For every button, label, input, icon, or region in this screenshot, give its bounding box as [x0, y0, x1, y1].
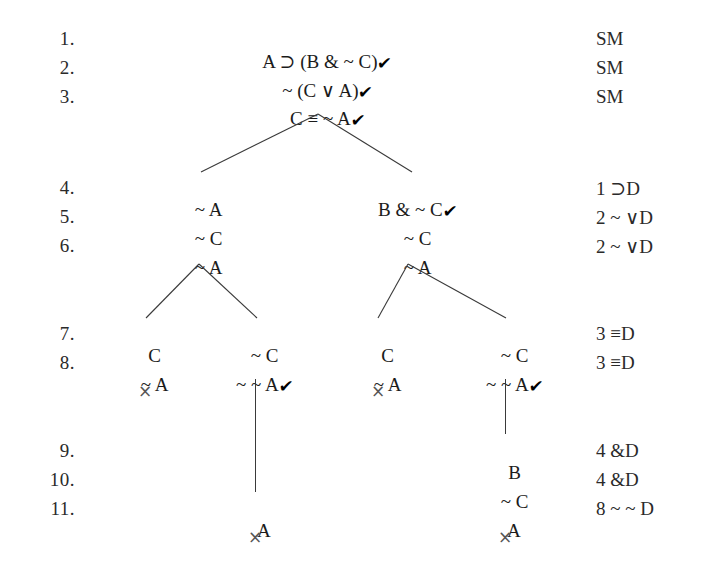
- line-number: 2.: [15, 57, 75, 79]
- branch-stem-4: [505, 379, 506, 434]
- formula-text: ~ ~ A: [486, 374, 529, 395]
- branch-close-mark: ×: [248, 527, 262, 547]
- justification: 8 ~ ~ D: [596, 498, 654, 520]
- line-number: 3.: [15, 86, 75, 108]
- justification: 4 &D: [596, 440, 639, 462]
- justification: 4 &D: [596, 469, 639, 491]
- line-number: 9.: [15, 440, 75, 462]
- branch-close-mark: ×: [138, 381, 152, 401]
- line-number: 10.: [15, 469, 75, 491]
- line-number: 4.: [15, 177, 75, 199]
- line-number: 8.: [15, 352, 75, 374]
- check-icon: ✔: [442, 201, 458, 221]
- branch-fork-root: [190, 112, 420, 174]
- justification: SM: [596, 57, 623, 79]
- branch-stem-2: [255, 379, 256, 492]
- justification: 1 ⊃D: [596, 177, 640, 200]
- justification: 3 ≡D: [596, 352, 635, 374]
- justification: SM: [596, 28, 623, 50]
- check-icon: ✔: [278, 376, 294, 396]
- line-number: 5.: [15, 206, 75, 228]
- branch-fork-right: [372, 262, 512, 320]
- truth-tree-canvas: 1. 2. 3. 4. 5. 6. 7. 8. 9. 10. 11. SM SM…: [0, 0, 705, 578]
- line-number: 7.: [15, 323, 75, 345]
- justification: SM: [596, 86, 623, 108]
- branch-close-mark: ×: [371, 381, 385, 401]
- branch-close-mark: ×: [498, 527, 512, 547]
- justification: 3 ≡D: [596, 323, 635, 345]
- line-number: 11.: [15, 498, 75, 520]
- line-number: 1.: [15, 28, 75, 50]
- justification: 2 ~ ∨D: [596, 206, 653, 229]
- line-number: 6.: [15, 235, 75, 257]
- check-icon: ✔: [376, 53, 392, 73]
- branch-fork-left: [140, 262, 264, 320]
- justification: 2 ~ ∨D: [596, 235, 653, 258]
- check-icon: ✔: [528, 376, 544, 396]
- formula-text: ~ ~ A: [236, 374, 279, 395]
